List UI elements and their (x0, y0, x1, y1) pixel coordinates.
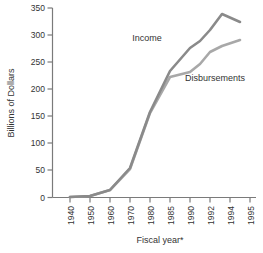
y-tick-label-0: 0 (40, 193, 45, 203)
x-axis-ticks (70, 198, 250, 203)
x-tick-label-1992: 1992 (206, 206, 216, 225)
y-tick-label-250: 250 (31, 57, 45, 67)
y-axis-ticks (48, 8, 53, 198)
y-tick-label-50: 50 (36, 165, 46, 175)
y-tick-label-350: 350 (31, 3, 45, 13)
x-axis-title: Fiscal year* (136, 235, 184, 245)
x-tick-label-1960: 1960 (106, 206, 116, 225)
x-tick-label-1940: 1940 (66, 206, 76, 225)
line-chart-canvas: 350 300 250 200 150 100 50 0 1940 1950 (0, 0, 263, 253)
x-axis-tick-labels: 1940 1950 1960 1970 1980 1985 1990 1992 … (66, 206, 256, 225)
x-tick-label-1994: 1994 (226, 206, 236, 225)
x-tick-label-1985: 1985 (166, 206, 176, 225)
series-line-disbursements (70, 40, 240, 197)
x-tick-label-1980: 1980 (146, 206, 156, 225)
y-tick-label-200: 200 (31, 84, 45, 94)
chart-container: 350 300 250 200 150 100 50 0 1940 1950 (0, 0, 263, 253)
y-tick-label-300: 300 (31, 30, 45, 40)
x-tick-label-1990: 1990 (186, 206, 196, 225)
x-tick-label-1950: 1950 (86, 206, 96, 225)
y-axis-title: Billions of Dollars (6, 68, 16, 138)
y-tick-label-100: 100 (31, 138, 45, 148)
y-axis-tick-labels: 350 300 250 200 150 100 50 0 (31, 3, 45, 203)
x-tick-label-1995: 1995 (246, 206, 256, 225)
x-tick-label-1970: 1970 (126, 206, 136, 225)
series-label-income: Income (132, 33, 162, 43)
y-tick-label-150: 150 (31, 111, 45, 121)
series-label-disbursements: Disbursements (185, 73, 246, 83)
